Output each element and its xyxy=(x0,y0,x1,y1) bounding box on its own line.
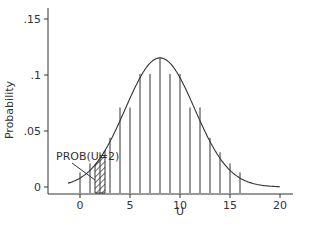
y-tick-label: 0 xyxy=(34,181,41,194)
y-tick-label: .15 xyxy=(24,13,42,26)
y-tick-label: .05 xyxy=(24,125,42,138)
x-tick-label: 5 xyxy=(127,199,134,212)
axes: 0.05.1.1505101520 xyxy=(24,8,294,212)
annotation-pointer xyxy=(72,163,95,180)
probability-chart: 0.05.1.1505101520 PROB(U=2) Probability … xyxy=(0,0,309,228)
annotation-label: PROB(U=2) xyxy=(56,150,119,163)
y-tick-label: .1 xyxy=(31,69,42,82)
x-tick-label: 15 xyxy=(223,199,237,212)
x-axis-label: U xyxy=(176,205,184,218)
y-axis-label: Probability xyxy=(3,80,16,139)
x-tick-label: 0 xyxy=(77,199,84,212)
x-tick-label: 20 xyxy=(273,199,287,212)
